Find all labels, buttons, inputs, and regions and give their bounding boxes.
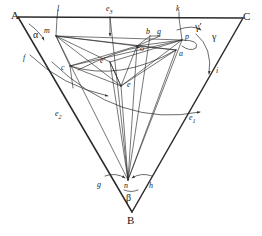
point-label-e2: e2 xyxy=(55,110,62,120)
point-label-i: i xyxy=(216,67,218,75)
point-label-l: l xyxy=(57,5,59,13)
vertex-label-B: B xyxy=(127,215,134,226)
point-label-p: p xyxy=(185,33,189,41)
point-label-m: m xyxy=(44,27,50,35)
vertex-label-C: C xyxy=(243,11,250,22)
point-label-g-lower: g xyxy=(97,181,101,189)
arc-n-left xyxy=(105,174,125,178)
fan-from-p xyxy=(70,18,182,86)
angle-label-gamma-prime: γ′ xyxy=(195,22,202,32)
side-AC xyxy=(18,17,243,18)
e1-subscript: 1 xyxy=(193,118,196,124)
point-label-b: b xyxy=(146,28,150,36)
e3-subscript: 3 xyxy=(110,9,113,15)
point-label-e: e xyxy=(127,81,131,89)
point-label-c: c xyxy=(61,64,65,72)
arc-p-loop xyxy=(182,40,197,50)
point-label-f: f xyxy=(23,54,25,62)
n-to-e3 xyxy=(110,17,128,180)
point-label-e-prime: e′ xyxy=(100,57,105,65)
point-label-a: a xyxy=(179,50,183,58)
n-to-b xyxy=(128,36,150,180)
angle-label-alpha: α xyxy=(33,30,38,40)
angle-label-gamma: γ xyxy=(212,32,216,42)
triangle-outline xyxy=(18,17,243,212)
connector-segments xyxy=(70,36,176,180)
point-label-o: o xyxy=(140,45,144,53)
angle-label-beta: β xyxy=(126,193,131,203)
arc-e-through-o xyxy=(78,47,140,70)
arc-i xyxy=(196,34,210,74)
point-label-g-upper: g xyxy=(157,28,161,36)
point-label-e1: e1 xyxy=(189,114,196,124)
m-stem xyxy=(56,18,57,36)
arc-n-right xyxy=(132,174,152,178)
n-to-e xyxy=(121,86,128,180)
e2-subscript: 2 xyxy=(59,114,62,120)
vertex-label-A: A xyxy=(11,10,19,21)
side-AB xyxy=(18,17,132,212)
point-label-n: n xyxy=(124,182,128,190)
m-to-e xyxy=(56,36,121,86)
point-label-h: h xyxy=(149,182,153,190)
point-label-e3: e3 xyxy=(106,5,113,15)
point-label-k: k xyxy=(176,5,180,13)
arc-e1 xyxy=(52,62,200,115)
m-to-c xyxy=(56,36,70,66)
